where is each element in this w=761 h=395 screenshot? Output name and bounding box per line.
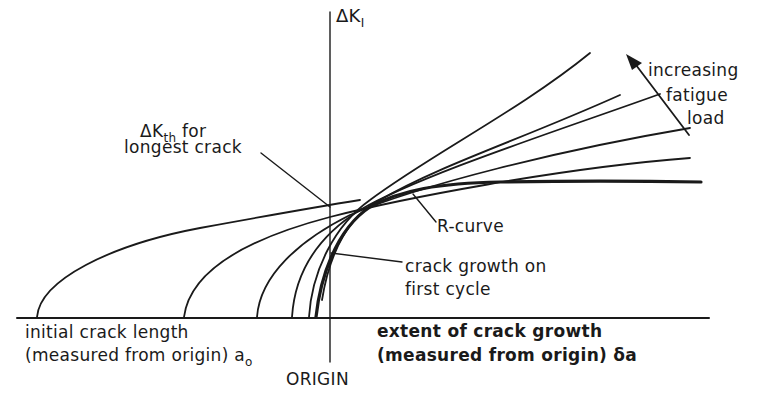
x-axis-left-label-line2: (measured from origin) ao bbox=[25, 345, 253, 367]
x-axis-left-label-line1: initial crack length bbox=[25, 322, 189, 342]
increasing-load-label-line2: fatigue bbox=[666, 85, 728, 105]
y-axis-label-main: ΔK bbox=[336, 5, 361, 26]
y-axis-label: ΔKI bbox=[336, 6, 365, 28]
first-cycle-label-line2: first cycle bbox=[405, 279, 491, 299]
r-curve-label: R-curve bbox=[437, 216, 504, 236]
x-axis-right-label-line1: extent of crack growth bbox=[377, 321, 602, 341]
increasing-load-label-line3: load bbox=[687, 108, 725, 128]
increasing-load-arrowhead-icon bbox=[626, 54, 642, 70]
x-axis-right-label-line2: (measured from origin) δa bbox=[377, 345, 637, 365]
y-axis-label-subscript: I bbox=[361, 16, 365, 30]
x-axis-left-label-text: (measured from origin) a bbox=[25, 345, 245, 365]
origin-label: ORIGIN bbox=[286, 369, 349, 389]
first-cycle-leader bbox=[331, 253, 402, 262]
threshold-leader bbox=[261, 153, 330, 207]
first-cycle-label-line1: crack growth on bbox=[405, 256, 547, 276]
x-axis-left-label-subscript: o bbox=[245, 355, 253, 369]
increasing-load-label-line1: increasing bbox=[648, 60, 738, 80]
threshold-annotation-line2: longest crack bbox=[124, 137, 242, 157]
r-curve-leader bbox=[413, 194, 436, 222]
